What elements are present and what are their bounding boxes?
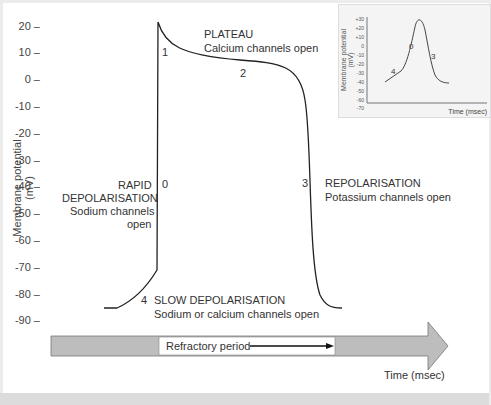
repolarisation-title: REPOLARISATION [325, 177, 421, 190]
action-potential-curve [104, 22, 342, 308]
rapid-depol-detail2: open [127, 218, 151, 231]
inset-phase-0: 0 [409, 42, 413, 51]
rapid-depol-title2: DEPOLARISATION [62, 192, 158, 205]
repolarisation-detail: Potassium channels open [325, 191, 451, 204]
phase-3-number: 3 [302, 177, 308, 189]
plateau-title: PLATEAU [204, 28, 253, 41]
slow-depol-detail: Sodium or calcium channels open [154, 308, 319, 321]
rapid-depol-title: RAPID [118, 179, 152, 192]
phase-4-number: 4 [141, 294, 147, 306]
slow-depol-title: SLOW DEPOLARISATION [154, 294, 285, 307]
phase-1-number: 1 [162, 46, 168, 58]
refractory-period-label: Refractory period [166, 340, 250, 352]
rapid-depol-detail: Sodium channels [70, 205, 154, 218]
pacemaker-inset: +30 +20 +10 0 -10 -20 -30 -40 -50 -60 -7… [338, 4, 491, 118]
inset-x-axis-label: Time (msec) [448, 108, 487, 115]
phase-2-number: 2 [240, 67, 246, 79]
phase-0-number: 0 [162, 178, 168, 190]
inset-phase-4: 4 [391, 67, 395, 76]
x-axis-label: Time (msec) [384, 369, 445, 381]
inset-phase-3: 3 [431, 52, 435, 61]
plateau-detail: Calcium channels open [204, 42, 318, 55]
inset-plot [339, 5, 490, 117]
